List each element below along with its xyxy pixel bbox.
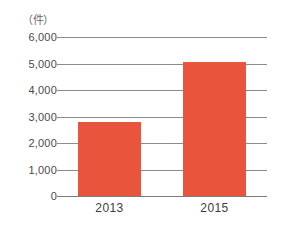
y-axis-tick-label: 6,000 bbox=[28, 31, 57, 43]
y-axis-tick-label: 2,000 bbox=[28, 137, 57, 149]
bar-chart: （件） 6,0005,0004,0003,0002,0001,0000 2013… bbox=[0, 0, 281, 230]
y-axis-unit-label: （件） bbox=[22, 11, 54, 27]
plot-area: 6,0005,0004,0003,0002,0001,0000 bbox=[57, 37, 267, 196]
gridline-0 bbox=[57, 196, 267, 197]
x-axis-label-2013: 2013 bbox=[57, 201, 162, 215]
y-axis-tick-label: 5,000 bbox=[28, 58, 57, 70]
y-axis-tick-label: 1,000 bbox=[28, 164, 57, 176]
bar-2013 bbox=[78, 122, 141, 196]
gridline-6000 bbox=[57, 37, 267, 38]
bar-2015 bbox=[183, 62, 246, 196]
y-axis-tick-label: 4,000 bbox=[28, 84, 57, 96]
y-axis-tick-label: 3,000 bbox=[28, 111, 57, 123]
x-axis-label-2015: 2015 bbox=[162, 201, 267, 215]
